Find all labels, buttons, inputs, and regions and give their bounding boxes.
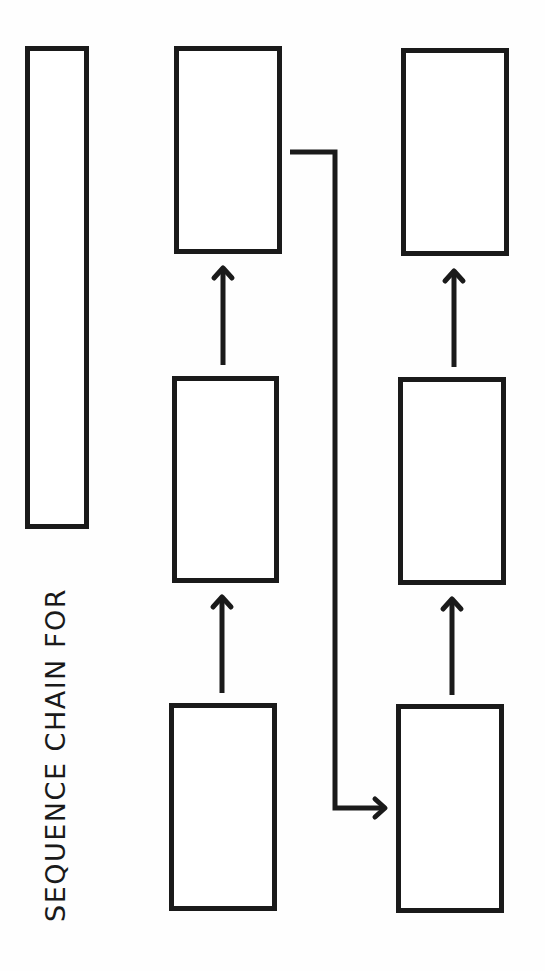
arrow-up-icon xyxy=(214,268,232,365)
right-chain-box-bottom[interactable] xyxy=(396,704,504,913)
right-chain-box-middle[interactable] xyxy=(398,377,506,585)
connector-arrow-icon xyxy=(290,152,385,817)
left-chain-box-top[interactable] xyxy=(174,46,282,254)
left-chain-box-middle[interactable] xyxy=(172,376,279,583)
right-chain-box-top[interactable] xyxy=(401,48,509,256)
sequence-chain-worksheet: SEQUENCE CHAIN FOR xyxy=(0,0,545,971)
arrow-up-icon xyxy=(213,597,231,693)
title-write-in-box[interactable] xyxy=(25,46,89,529)
arrow-up-icon xyxy=(443,599,461,695)
page-title: SEQUENCE CHAIN FOR xyxy=(40,588,71,922)
arrow-up-icon xyxy=(445,271,463,367)
left-chain-box-bottom[interactable] xyxy=(169,703,277,911)
title-label-container: SEQUENCE CHAIN FOR xyxy=(34,560,76,950)
